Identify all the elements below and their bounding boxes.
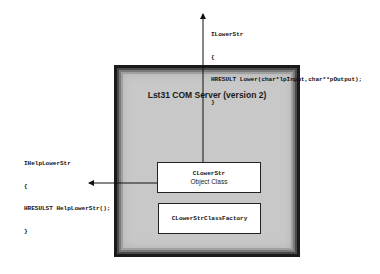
interface-method: HRESULT Lower(char*lpInput,char**pOutput… [211, 76, 362, 84]
interface-name: IHelpLowerStr [24, 160, 110, 168]
object-class-subtitle: Object Class [191, 178, 228, 185]
ilowerstr-interface: ILowerStr { HRESULT Lower(char*lpInput,c… [211, 16, 362, 114]
ihelplowerstr-interface: IHelpLowerStr { HRESULST HelpLowerStr();… [24, 145, 110, 243]
close-brace: } [24, 228, 110, 236]
interface-name: ILowerStr [211, 31, 362, 39]
class-factory-box: CLowerStrClassFactory [158, 203, 261, 234]
close-brace: } [211, 99, 362, 107]
open-brace: { [24, 183, 110, 191]
object-class-name: CLowerStr [193, 170, 225, 177]
object-class-box: CLowerStr Object Class [157, 162, 261, 193]
class-factory-name: CLowerStrClassFactory [172, 215, 248, 222]
open-brace: { [211, 54, 362, 62]
interface-method: HRESULST HelpLowerStr(); [24, 205, 110, 213]
